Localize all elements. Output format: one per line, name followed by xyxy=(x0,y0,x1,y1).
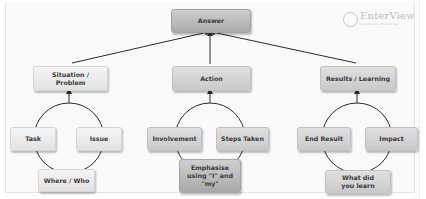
steps-taken-node: Steps Taken xyxy=(216,127,269,151)
results-learning-node: Results / Learning xyxy=(320,66,396,91)
enterview-logo: EnterView by Anusha Mohanraj xyxy=(343,10,409,34)
end-result-label: End Result xyxy=(305,135,343,143)
involvement-node: Involvement xyxy=(147,127,202,151)
what-did-you-learn-node: What did you learn xyxy=(325,170,391,194)
end-result-node: End Result xyxy=(297,127,351,151)
steps-taken-label: Steps Taken xyxy=(221,135,264,143)
emphasise-node: Emphasise using "I" and "my" xyxy=(179,159,241,193)
growth-chart-circle-icon xyxy=(343,12,358,27)
results-learning-label: Results / Learning xyxy=(326,75,390,83)
issue-node: Issue xyxy=(76,127,122,151)
situation-problem-label: Situation / Problem xyxy=(51,71,91,87)
where-who-node: Where / Who xyxy=(38,169,95,192)
involvement-label: Involvement xyxy=(152,135,196,143)
logo-name: EnterView xyxy=(360,10,415,21)
answer-label: Answer xyxy=(198,17,224,25)
answer-node: Answer xyxy=(171,9,251,33)
action-label: Action xyxy=(200,75,223,83)
impact-node: Impact xyxy=(365,127,418,151)
action-node: Action xyxy=(172,66,251,91)
issue-label: Issue xyxy=(90,135,109,143)
emphasise-label: Emphasise using "I" and "my" xyxy=(187,164,233,188)
where-who-label: Where / Who xyxy=(44,177,90,185)
impact-label: Impact xyxy=(379,135,403,143)
situation-problem-node: Situation / Problem xyxy=(33,66,108,91)
task-label: Task xyxy=(25,135,41,143)
logo-tagline: by Anusha Mohanraj xyxy=(360,22,398,26)
what-did-you-learn-label: What did you learn xyxy=(336,174,380,190)
task-node: Task xyxy=(10,127,56,151)
